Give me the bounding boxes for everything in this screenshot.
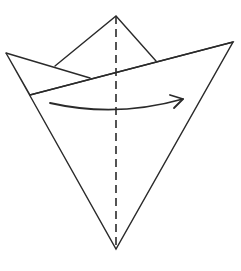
origami-diagram bbox=[0, 0, 241, 271]
paper-model bbox=[6, 16, 233, 249]
top-peak-edge bbox=[55, 16, 156, 66]
outer-outline bbox=[6, 42, 233, 249]
